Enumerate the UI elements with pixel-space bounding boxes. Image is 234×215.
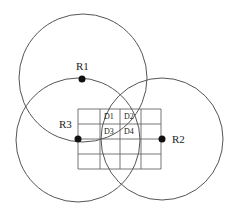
cell-label-d1: D1: [104, 112, 114, 121]
node-label-r1: R1: [76, 60, 89, 72]
node-label-r2: R2: [172, 133, 185, 145]
cell-label-d4: D4: [124, 127, 134, 136]
node-r2-dot: [159, 136, 166, 143]
grid: [78, 109, 161, 169]
cell-label-d2: D2: [124, 112, 134, 121]
node-r1-dot: [79, 76, 86, 83]
range-circles: [16, 14, 223, 202]
cell-label-d3: D3: [104, 127, 114, 136]
node-r3-dot: [75, 136, 82, 143]
node-label-r3: R3: [59, 118, 72, 130]
trilateration-diagram: D1 D2 D3 D4 R1 R2 R3: [0, 0, 234, 215]
